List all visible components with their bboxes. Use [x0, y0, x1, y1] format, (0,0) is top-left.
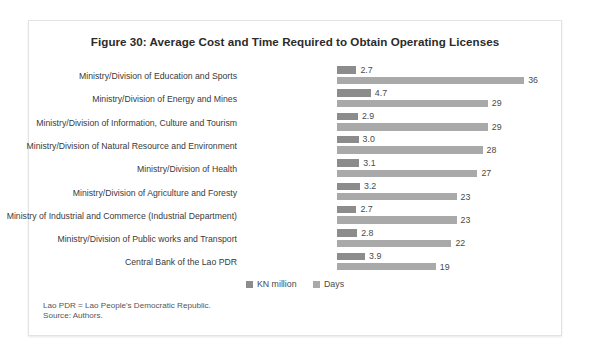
- category-label: Ministry of Industrial and Commerce (Ind…: [0, 205, 237, 228]
- bar-value-days: 36: [528, 76, 538, 85]
- bar-kn-million: [337, 136, 359, 143]
- bar-chart-plot-area: Ministry/Division of Education and Sport…: [39, 65, 553, 275]
- bar-value-days: 29: [492, 123, 502, 132]
- bar-value-kn-million: 4.7: [375, 89, 387, 98]
- chart-row-group: Ministry/Division of Public works and Tr…: [39, 228, 553, 251]
- legend-item-days: Days: [313, 279, 344, 289]
- bar-pair: 2.822: [337, 228, 553, 251]
- bar-value-kn-million: 3.0: [363, 135, 375, 144]
- bar-value-days: 27: [481, 169, 491, 178]
- bar-kn-million: [337, 183, 360, 190]
- category-label: Ministry/Division of Health: [0, 158, 237, 181]
- bar-days: [337, 263, 436, 270]
- bar-value-kn-million: 2.9: [362, 112, 374, 121]
- bar-kn-million: [337, 206, 356, 213]
- note-abbreviation: Lao PDR = Lao People's Democratic Republ…: [43, 301, 211, 312]
- bar-pair: 3.127: [337, 158, 553, 181]
- bar-value-days: 22: [455, 239, 465, 248]
- category-label: Central Bank of the Lao PDR: [0, 251, 237, 274]
- legend-item-kn-million: KN million: [246, 279, 297, 289]
- bar-value-kn-million: 2.8: [361, 229, 373, 238]
- legend-swatch-kn-million-icon: [246, 281, 253, 288]
- bar-pair: 3.223: [337, 182, 553, 205]
- legend-swatch-days-icon: [313, 281, 320, 288]
- figure-notes: Lao PDR = Lao People's Democratic Republ…: [43, 301, 211, 322]
- chart-row-group: Ministry/Division of Energy and Mines4.7…: [39, 88, 553, 111]
- bar-days: [337, 77, 524, 84]
- chart-row-group: Ministry/Division of Natural Resource an…: [39, 135, 553, 158]
- bar-value-days: 23: [461, 193, 471, 202]
- bar-kn-million: [337, 66, 356, 73]
- bar-kn-million: [337, 159, 359, 166]
- chart-row-group: Ministry/Division of Agriculture and For…: [39, 182, 553, 205]
- category-label: Ministry/Division of Public works and Tr…: [0, 228, 237, 251]
- bar-kn-million: [337, 229, 357, 236]
- bar-days: [337, 193, 457, 200]
- bar-days: [337, 146, 483, 153]
- bar-days: [337, 123, 488, 130]
- bar-pair: 3.028: [337, 135, 553, 158]
- bar-value-days: 29: [492, 99, 502, 108]
- bar-pair: 2.736: [337, 65, 553, 88]
- figure-panel: Figure 30: Average Cost and Time Require…: [28, 20, 562, 336]
- chart-row-group: Ministry of Industrial and Commerce (Ind…: [39, 205, 553, 228]
- bar-pair: 3.919: [337, 251, 553, 274]
- chart-row-group: Central Bank of the Lao PDR3.919: [39, 251, 553, 274]
- bar-value-kn-million: 2.7: [360, 205, 372, 214]
- bar-pair: 4.729: [337, 88, 553, 111]
- legend-label-days: Days: [324, 279, 344, 289]
- category-label: Ministry/Division of Natural Resource an…: [0, 135, 237, 158]
- bar-value-kn-million: 2.7: [360, 66, 372, 75]
- bar-pair: 2.723: [337, 205, 553, 228]
- chart-legend: KN million Days: [29, 279, 561, 289]
- bar-value-kn-million: 3.1: [363, 159, 375, 168]
- bar-kn-million: [337, 253, 365, 260]
- category-label: Ministry/Division of Education and Sport…: [0, 65, 237, 88]
- bar-days: [337, 240, 451, 247]
- chart-row-group: Ministry/Division of Health3.127: [39, 158, 553, 181]
- category-label: Ministry/Division of Agriculture and For…: [0, 182, 237, 205]
- bar-days: [337, 216, 457, 223]
- bar-pair: 2.929: [337, 112, 553, 135]
- bar-value-days: 23: [461, 216, 471, 225]
- chart-row-group: Ministry/Division of Education and Sport…: [39, 65, 553, 88]
- bar-value-kn-million: 3.2: [364, 182, 376, 191]
- bar-kn-million: [337, 113, 358, 120]
- bar-days: [337, 100, 488, 107]
- note-source: Source: Authors.: [43, 311, 211, 322]
- bar-days: [337, 170, 477, 177]
- chart-row-group: Ministry/Division of Information, Cultur…: [39, 112, 553, 135]
- category-label: Ministry/Division of Information, Cultur…: [0, 112, 237, 135]
- bar-value-days: 28: [487, 146, 497, 155]
- bar-value-kn-million: 3.9: [369, 252, 381, 261]
- bar-value-days: 19: [440, 263, 450, 272]
- category-label: Ministry/Division of Energy and Mines: [0, 88, 237, 111]
- bar-kn-million: [337, 89, 371, 96]
- figure-title: Figure 30: Average Cost and Time Require…: [29, 35, 561, 48]
- legend-label-kn-million: KN million: [257, 279, 297, 289]
